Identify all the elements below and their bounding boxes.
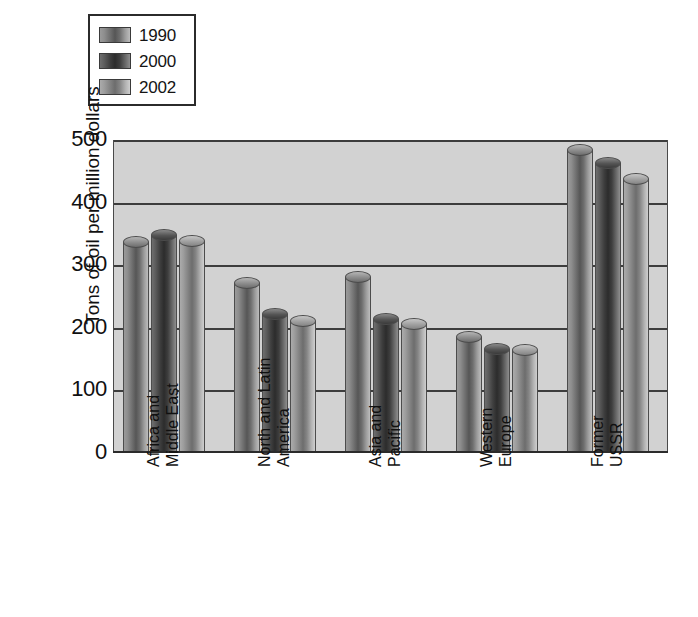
bar-2002-2 [290, 315, 316, 452]
bar-cap-ellipse [290, 315, 316, 327]
x-axis-tick-label: FormerUSSR [588, 317, 626, 467]
legend-item: 2002 [99, 74, 194, 100]
x-axis-tick-labels: Africa andMiddle EastNorth and LatinAmer… [113, 453, 668, 617]
legend-item: 2000 [99, 48, 194, 74]
bar-2002-1 [179, 235, 205, 452]
legend-swatch-1990-icon [99, 27, 131, 43]
bar-2002-3 [401, 318, 427, 452]
chart-legend: 1990 2000 2002 [88, 14, 196, 106]
legend-label: 2002 [139, 79, 176, 96]
y-axis-tick-labels: 5004003002001000 [35, 140, 107, 453]
bar-cap-ellipse [123, 236, 149, 248]
y-axis-tick-label: 400 [37, 191, 107, 213]
legend-label: 2000 [139, 53, 176, 70]
x-axis-tick-label: Africa andMiddle East [144, 317, 182, 467]
x-axis-tick-label-line: Western [478, 408, 495, 467]
bar-cap-ellipse [401, 318, 427, 330]
x-axis-tick-label-line: Europe [496, 317, 515, 467]
y-axis-tick-label: 200 [37, 316, 107, 338]
legend-swatch-2000-icon [99, 53, 131, 69]
y-axis-tick-label: 300 [37, 253, 107, 275]
x-axis-tick-label-line: Former [589, 415, 606, 467]
x-axis-tick-label-line: North and Latin [256, 358, 273, 467]
legend-swatch-2002-icon [99, 79, 131, 95]
y-axis-tick-label: 100 [37, 378, 107, 400]
x-axis-tick-label: North and LatinAmerica [255, 317, 293, 467]
bar-2002-5 [623, 173, 649, 452]
bar-cap-ellipse [567, 144, 593, 156]
x-axis-tick-label: WesternEurope [477, 317, 515, 467]
x-axis-tick-label-line: Pacific [385, 317, 404, 467]
bar-body [623, 179, 649, 452]
bar-cap-ellipse [345, 271, 371, 283]
bar-body [290, 321, 316, 452]
bar-cap-ellipse [623, 173, 649, 185]
x-axis-tick-label-line: USSR [607, 317, 626, 467]
bar-body [179, 241, 205, 452]
legend-item: 1990 [99, 22, 194, 48]
bar-body [512, 350, 538, 452]
bar-body [401, 324, 427, 452]
x-axis-tick-label-line: America [274, 317, 293, 467]
x-axis-tick-label-line: Middle East [163, 317, 182, 467]
x-axis-tick-label: Asia andPacific [366, 317, 404, 467]
bar-cap-ellipse [234, 277, 260, 289]
bar-2002-4 [512, 344, 538, 452]
bar-cap-ellipse [595, 157, 621, 169]
y-axis-tick-label: 500 [37, 128, 107, 150]
legend-label: 1990 [139, 27, 176, 44]
y-axis-tick-label: 0 [37, 441, 107, 463]
x-axis-tick-label-line: Africa and [145, 395, 162, 467]
bar-cap-ellipse [179, 235, 205, 247]
bar-cap-ellipse [512, 344, 538, 356]
x-axis-tick-label-line: Asia and [367, 405, 384, 467]
